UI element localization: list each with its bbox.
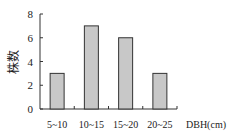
x-axis-title: DBH(cm) <box>186 119 226 131</box>
y-axis-title: 株数 <box>6 50 21 74</box>
y-tick-label: 4 <box>28 56 34 68</box>
y-tick-label: 8 <box>28 8 34 20</box>
dbh-bar-chart: 024685~1010~1515~2020~25DBH(cm)株数 <box>0 0 241 139</box>
labels: 024685~1010~1515~2020~25DBH(cm)株数 <box>6 8 226 131</box>
bars <box>50 26 167 109</box>
y-tick-label: 0 <box>28 103 34 115</box>
y-tick-label: 6 <box>28 32 34 44</box>
x-tick-label: 5~10 <box>47 119 67 130</box>
x-tick-label: 20~25 <box>147 119 172 130</box>
bar-5~10 <box>50 73 64 109</box>
bar-15~20 <box>119 38 133 109</box>
x-tick-label: 10~15 <box>79 119 104 130</box>
bar-10~15 <box>84 26 98 109</box>
bar-20~25 <box>153 73 167 109</box>
x-tick-label: 15~20 <box>113 119 138 130</box>
y-tick-label: 2 <box>28 79 34 91</box>
